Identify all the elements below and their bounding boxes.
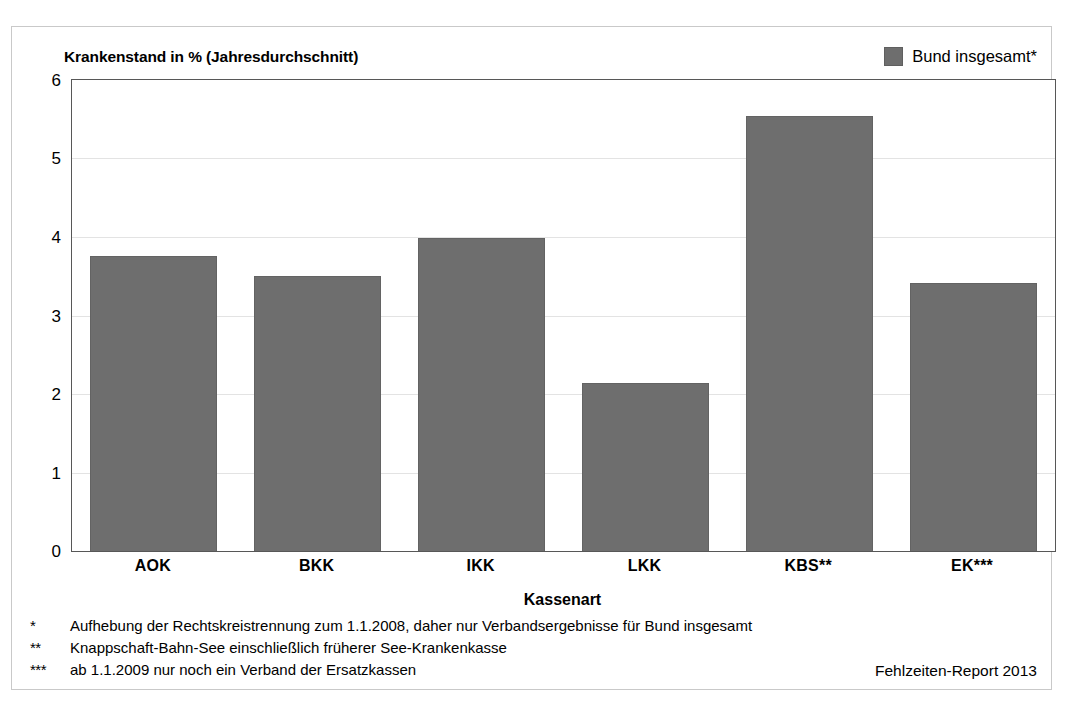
bar-slot [72, 80, 236, 551]
source-label: Fehlzeiten-Report 2013 [875, 662, 1037, 680]
bar [254, 276, 381, 551]
bar [910, 283, 1037, 551]
x-tick-label: LKK [562, 557, 726, 575]
legend-swatch-bund-insgesamt [884, 47, 903, 66]
x-axis-title: Kassenart [71, 591, 1054, 609]
y-tick-label: 0 [52, 543, 61, 560]
footnote-text: Knappschaft-Bahn-See einschließlich früh… [70, 637, 1034, 659]
y-tick-label: 1 [52, 464, 61, 481]
x-tick-label: KBS** [726, 557, 890, 575]
chart-legend: Bund insgesamt* [884, 47, 1037, 66]
x-axis-ticks: AOKBKKIKKLKKKBS**EK*** [71, 557, 1054, 575]
footnote: *Aufhebung der Rechtskreistrennung zum 1… [30, 615, 1034, 637]
footnote: **Knappschaft-Bahn-See einschließlich fr… [30, 637, 1034, 659]
legend-label-bund-insgesamt: Bund insgesamt* [912, 47, 1037, 66]
chart-title: Krankenstand in % (Jahresdurchschnitt) [64, 48, 358, 66]
x-tick-label: BKK [235, 557, 399, 575]
plot-area: 0123456 [71, 79, 1056, 552]
bar-series-bund-insgesamt [72, 80, 1055, 551]
footnote-marker: * [30, 615, 70, 637]
y-tick-label: 4 [52, 228, 61, 245]
bar [746, 116, 873, 551]
bar-slot [727, 80, 891, 551]
footnote-marker: *** [30, 659, 70, 681]
bar [418, 238, 545, 551]
y-tick-label: 3 [52, 307, 61, 324]
bar [582, 383, 709, 551]
footnote-marker: ** [30, 637, 70, 659]
bar [90, 256, 217, 551]
y-tick-label: 2 [52, 385, 61, 402]
x-tick-label: EK*** [890, 557, 1054, 575]
y-tick-label: 6 [52, 72, 61, 89]
bar-slot [891, 80, 1055, 551]
x-tick-label: AOK [71, 557, 235, 575]
y-tick-label: 5 [52, 150, 61, 167]
bar-slot [236, 80, 400, 551]
bar-slot [400, 80, 564, 551]
x-tick-label: IKK [399, 557, 563, 575]
chart-figure: Krankenstand in % (Jahresdurchschnitt) B… [11, 26, 1052, 690]
bar-slot [563, 80, 727, 551]
footnote-text: Aufhebung der Rechtskreistrennung zum 1.… [70, 615, 1034, 637]
